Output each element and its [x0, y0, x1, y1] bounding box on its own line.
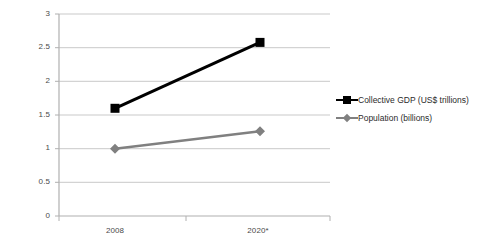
series-collective-gdp	[111, 38, 265, 113]
data-point-population-2008	[110, 144, 120, 154]
y-tick-label-2: 2	[24, 76, 50, 85]
data-point-gdp-2020	[256, 38, 265, 47]
y-tick-label-3: 3	[24, 9, 50, 18]
line-chart: 3 2.5 2 1.5 1 0.5 0 2008 2020* Collectiv…	[0, 0, 489, 244]
series-line-population	[115, 131, 260, 149]
y-tick-label-2-5: 2.5	[24, 42, 50, 51]
gridlines	[59, 14, 330, 182]
y-tick-label-1-5: 1.5	[24, 110, 50, 119]
series-population	[110, 126, 265, 154]
x-tick-label-2008: 2008	[85, 226, 145, 235]
x-tick-label-2020: 2020*	[228, 226, 288, 235]
data-point-gdp-2008	[111, 104, 120, 113]
series-line-gdp	[115, 42, 260, 108]
legend-marker-square-icon	[336, 93, 358, 107]
legend-label-collective-gdp: Collective GDP (US$ trillions)	[358, 96, 469, 105]
data-point-population-2020	[255, 126, 265, 136]
x-axis-ticks	[59, 216, 330, 221]
y-tick-label-0-5: 0.5	[24, 177, 50, 186]
y-tick-label-1: 1	[24, 143, 50, 152]
legend-item-population[interactable]: Population (billions)	[336, 110, 489, 126]
legend-marker-diamond-icon	[336, 111, 358, 125]
legend-label-population: Population (billions)	[358, 114, 432, 123]
y-tick-label-0: 0	[24, 211, 50, 220]
chart-legend: Collective GDP (US$ trillions) Populatio…	[336, 92, 489, 128]
legend-item-collective-gdp[interactable]: Collective GDP (US$ trillions)	[336, 92, 489, 108]
